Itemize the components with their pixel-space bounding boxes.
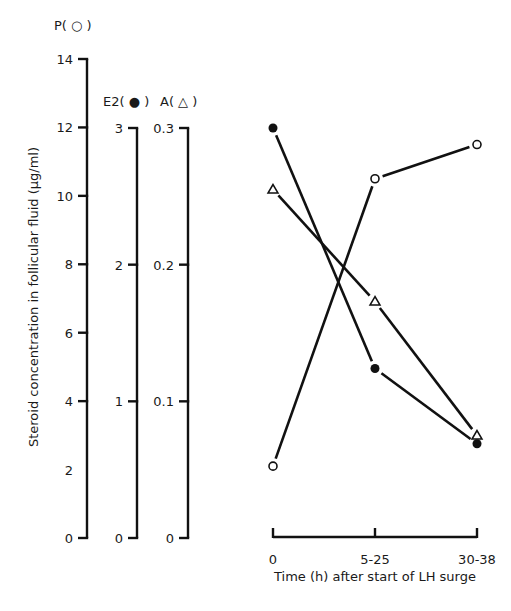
tick-label: 0 [115,531,123,546]
series-segment [276,186,373,458]
series-segment [278,195,369,295]
x-tick-label: 5-25 [360,552,390,567]
tick-label: 6 [65,326,73,341]
open-circle-marker [473,141,481,149]
tick-label: 2 [65,463,73,478]
tick-label: 12 [56,120,73,135]
tick-label: 14 [56,52,73,67]
open-triangle-marker [472,431,482,440]
open-circle-marker [371,175,379,183]
filled-circle-marker [371,364,380,373]
open-triangle-marker [370,297,380,306]
x-axis-label: Time (h) after start of LH surge [273,569,476,584]
tick-label: 0 [65,531,73,546]
series-a [268,185,482,440]
tick-label: 3 [115,121,123,136]
tick-label: 8 [65,257,73,272]
a-axis-title: A( △ ) [160,94,197,109]
x-axis: 05-2530-38 [269,528,496,567]
x-tick-label: 0 [269,552,277,567]
open-circle-marker [269,462,277,470]
series-segment [383,147,470,176]
series-segment [276,135,372,361]
steroid-chart: Steroid concentration in follicular flui… [0,0,511,611]
y-axis-label: Steroid concentration in follicular flui… [26,147,41,447]
tick-label: 10 [56,189,73,204]
tick-label: 1 [115,394,123,409]
tick-label: 2 [115,258,123,273]
filled-circle-marker [269,124,278,133]
x-tick-label: 30-38 [458,552,496,567]
tick-label: 0.1 [153,394,174,409]
series-segment [380,308,472,429]
data-series [268,124,482,471]
series-segment [381,373,470,439]
tick-label: 0 [166,531,174,546]
tick-label: 0.3 [153,121,174,136]
y-axes: 02468101214012300.10.20.3 [56,52,189,546]
filled-circle-marker [473,439,482,448]
tick-label: 0.2 [153,258,174,273]
tick-label: 4 [65,394,73,409]
open-triangle-marker [268,185,278,194]
p-axis-title: P( ○ ) [54,18,92,33]
e2-axis-title: E2( ● ) [103,94,149,109]
